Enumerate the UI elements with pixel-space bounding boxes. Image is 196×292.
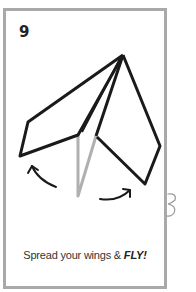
page-tab-icon: [167, 194, 175, 216]
left-wing-arrow-icon: [28, 166, 56, 187]
keel-icon: [78, 135, 96, 196]
right-wing-icon: [97, 55, 160, 184]
right-wing-arrow-icon: [100, 189, 130, 200]
paper-airplane-illustration: [0, 0, 196, 292]
